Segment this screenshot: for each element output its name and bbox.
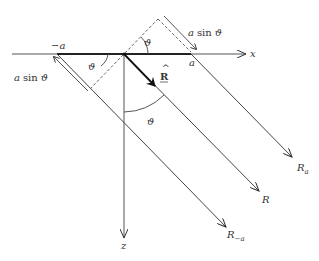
ray-R-minus-a	[57, 54, 226, 227]
x-axis-label: x	[250, 48, 256, 59]
angle-arc-left	[101, 54, 108, 66]
angle-arc-bottom	[124, 95, 164, 112]
diagram-canvas: x z −a a Ra R R−a R ^ ϑ ϑ ϑ	[0, 0, 319, 261]
ray-R-a	[191, 54, 292, 157]
hat-accent: ^	[162, 62, 170, 73]
origin-point	[123, 53, 126, 56]
angle-theta-top: ϑ	[144, 37, 151, 48]
point-a-label: a	[189, 57, 195, 68]
path-diff-right-label: asinϑ	[188, 27, 222, 38]
z-axis-label: z	[120, 240, 127, 251]
angle-theta-left: ϑ	[88, 61, 95, 72]
ray-R-a-label: Ra	[296, 162, 309, 176]
ray-R-label: R	[261, 194, 270, 205]
ray-R-minus-a-label: R−a	[226, 229, 245, 243]
unit-vector-R-hat	[124, 54, 155, 86]
path-diff-left-label: asinϑ	[14, 72, 48, 83]
point-minus-a-label: −a	[51, 40, 65, 51]
path-diff-arrow-left	[54, 57, 88, 91]
angle-theta-bottom: ϑ	[147, 116, 154, 127]
